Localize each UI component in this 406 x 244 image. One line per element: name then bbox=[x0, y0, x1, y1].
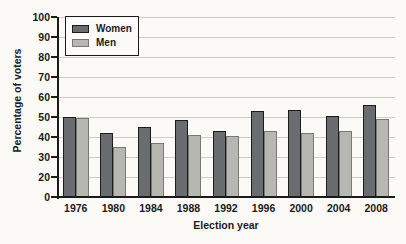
y-axis-tick-label-20: 20 bbox=[20, 171, 50, 183]
bar-women-1980 bbox=[100, 133, 113, 197]
x-axis-label-1996: 1996 bbox=[245, 202, 283, 215]
bar-women-1996 bbox=[251, 111, 264, 197]
x-axis-label-1984: 1984 bbox=[132, 202, 170, 215]
gridline-50 bbox=[59, 117, 395, 118]
legend-swatch-women bbox=[72, 25, 89, 33]
bar-men-1996 bbox=[264, 131, 277, 197]
bar-men-2000 bbox=[301, 133, 314, 197]
bar-men-1988 bbox=[188, 135, 201, 197]
y-axis-tick-30 bbox=[51, 156, 57, 158]
bar-women-2008 bbox=[363, 105, 376, 197]
x-axis-label-2008: 2008 bbox=[357, 202, 395, 215]
bar-men-2004 bbox=[339, 131, 352, 197]
y-axis-tick-70 bbox=[51, 76, 57, 78]
y-axis-tick-label-30: 30 bbox=[20, 151, 50, 163]
y-axis-tick-40 bbox=[51, 136, 57, 138]
legend-label-men: Men bbox=[96, 37, 116, 49]
x-axis-label-1980: 1980 bbox=[95, 202, 133, 215]
legend-swatch-men bbox=[72, 39, 89, 47]
y-axis-tick-label-50: 50 bbox=[20, 111, 50, 123]
gridline-80 bbox=[59, 57, 395, 58]
legend-item-men: Men bbox=[72, 37, 138, 49]
y-axis-tick-label-60: 60 bbox=[20, 91, 50, 103]
x-axis-label-1976: 1976 bbox=[57, 202, 95, 215]
y-axis-tick-20 bbox=[51, 176, 57, 178]
legend-label-women: Women bbox=[96, 23, 132, 35]
y-axis-line bbox=[57, 17, 59, 199]
gridline-60 bbox=[59, 97, 395, 98]
bar-women-1976 bbox=[63, 117, 76, 197]
x-axis-line bbox=[57, 196, 395, 198]
y-axis-tick-100 bbox=[51, 16, 57, 18]
bar-women-1984 bbox=[138, 127, 151, 197]
x-axis-title: Election year bbox=[57, 219, 395, 231]
bar-men-1980 bbox=[113, 147, 126, 197]
y-axis-tick-label-90: 90 bbox=[20, 31, 50, 43]
bar-women-1992 bbox=[213, 131, 226, 197]
x-axis-label-2004: 2004 bbox=[320, 202, 358, 215]
x-axis-label-1992: 1992 bbox=[207, 202, 245, 215]
x-axis-label-1988: 1988 bbox=[170, 202, 208, 215]
bar-chart-figure: Percentage of voters 1976198019841988199… bbox=[0, 0, 406, 244]
bar-women-1988 bbox=[175, 120, 188, 197]
bar-men-1992 bbox=[226, 136, 239, 197]
bar-women-2004 bbox=[326, 116, 339, 197]
y-axis-tick-80 bbox=[51, 56, 57, 58]
bar-men-2008 bbox=[376, 119, 389, 197]
y-axis-tick-label-80: 80 bbox=[20, 51, 50, 63]
bar-women-2000 bbox=[288, 110, 301, 197]
y-axis-tick-label-100: 100 bbox=[20, 11, 50, 23]
y-axis-tick-60 bbox=[51, 96, 57, 98]
y-axis-tick-label-70: 70 bbox=[20, 71, 50, 83]
gridline-70 bbox=[59, 77, 395, 78]
y-axis-tick-90 bbox=[51, 36, 57, 38]
y-axis-tick-label-40: 40 bbox=[20, 131, 50, 143]
y-axis-tick-label-0: 0 bbox=[20, 191, 50, 203]
legend: Women Men bbox=[65, 16, 139, 56]
x-axis-label-2000: 2000 bbox=[282, 202, 320, 215]
legend-item-women: Women bbox=[72, 23, 138, 35]
bar-men-1976 bbox=[76, 118, 89, 197]
bar-men-1984 bbox=[151, 143, 164, 197]
y-axis-tick-50 bbox=[51, 116, 57, 118]
x-axis-labels: 197619801984198819921996200020042008 bbox=[57, 202, 395, 216]
